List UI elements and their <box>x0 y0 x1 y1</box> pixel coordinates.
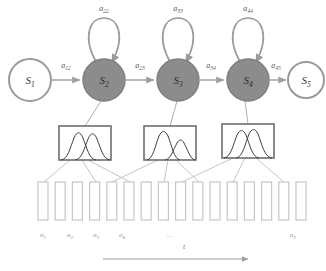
emission-box-s3[interactable] <box>144 126 196 160</box>
emission-box-s4[interactable] <box>222 124 274 158</box>
transition-label-a12: a12 <box>61 61 71 71</box>
hmm-diagram-canvas: a22 a33 a44 a12 a23 a34 <box>0 0 326 271</box>
self-loop-group <box>89 18 264 62</box>
hmm-diagram: a22 a33 a44 a12 a23 a34 <box>0 0 326 271</box>
observation-label-oT: oT <box>290 231 298 240</box>
fan-line <box>176 160 199 182</box>
observation-ellipsis: ... <box>166 231 173 239</box>
connector-s4-box <box>245 101 248 124</box>
observation-bar[interactable] <box>279 182 289 220</box>
observation-bar[interactable] <box>72 182 82 220</box>
transition-label-a45: a45 <box>271 61 281 71</box>
observation-bar[interactable] <box>262 182 272 220</box>
observation-bar[interactable] <box>193 182 203 220</box>
observation-bar[interactable] <box>90 182 100 220</box>
observation-bar[interactable] <box>227 182 237 220</box>
transition-label-a23: a23 <box>135 61 145 71</box>
self-loop-label-a22: a22 <box>99 4 109 14</box>
fan-line <box>256 158 284 182</box>
observation-label-o2: o2 <box>67 231 74 240</box>
connector-s2-box <box>85 101 101 126</box>
emission-observation-fan <box>44 158 284 182</box>
state-emission-connectors <box>85 101 248 126</box>
fan-line <box>112 160 158 182</box>
observation-bar[interactable] <box>296 182 306 220</box>
observation-label-o4: o4 <box>119 231 126 240</box>
observation-label-o1: o1 <box>40 231 46 240</box>
time-axis: t <box>103 242 248 259</box>
observation-bar[interactable] <box>210 182 220 220</box>
self-loop-label-a44: a44 <box>243 4 253 14</box>
self-loop-s3 <box>163 18 194 62</box>
observation-bar[interactable] <box>141 182 151 220</box>
fan-line <box>233 158 245 182</box>
observation-bar-group <box>38 182 306 220</box>
observation-bar[interactable] <box>55 182 65 220</box>
observation-bar[interactable] <box>124 182 134 220</box>
observation-bar[interactable] <box>176 182 186 220</box>
emission-box-s2[interactable] <box>59 126 111 160</box>
observation-bar[interactable] <box>38 182 48 220</box>
fan-line <box>164 160 168 182</box>
observation-label-o3: o3 <box>93 231 100 240</box>
observation-bar[interactable] <box>107 182 117 220</box>
observation-labels: o1 o2 o3 o4 oT ... <box>40 231 297 240</box>
connector-s3-box <box>170 101 177 126</box>
fan-line <box>44 160 70 182</box>
self-loop-labels: a22 a33 a44 <box>99 4 253 14</box>
fan-line <box>182 158 233 182</box>
self-loop-label-a33: a33 <box>173 4 183 14</box>
time-axis-label: t <box>183 242 186 251</box>
observation-bar[interactable] <box>158 182 168 220</box>
self-loop-s4 <box>233 18 264 62</box>
transition-label-a34: a34 <box>206 61 216 71</box>
self-loop-s2 <box>89 18 120 62</box>
observation-bar[interactable] <box>244 182 254 220</box>
